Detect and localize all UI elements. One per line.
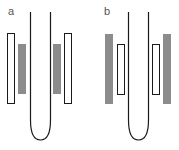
outer-electrode-left [8,34,15,104]
panel-a [8,12,72,140]
diagram [0,0,179,150]
inner-electrode-right [53,44,61,94]
outer-electrode-left [105,34,113,104]
panel-b [105,12,171,140]
inner-electrode-left [18,44,26,94]
outer-electrode-right [163,34,171,104]
outer-electrode-right [65,34,72,104]
inner-electrode-right [153,45,160,95]
u-tube [31,12,51,140]
inner-electrode-left [118,45,125,95]
u-tube [129,12,149,140]
